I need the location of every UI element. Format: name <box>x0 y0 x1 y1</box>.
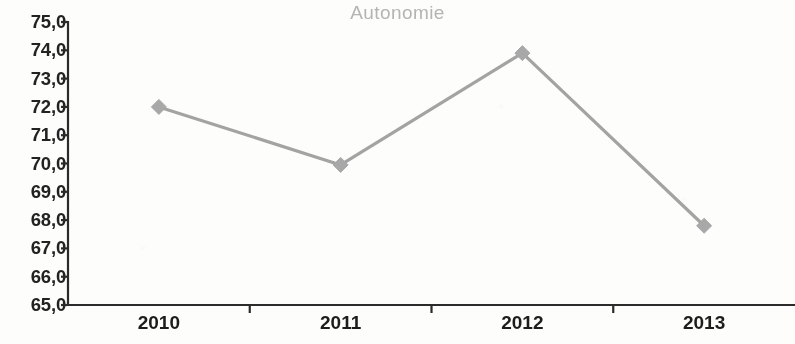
series-line <box>159 53 704 226</box>
data-point-marker <box>333 157 348 172</box>
chart-series <box>151 46 711 234</box>
chart-axes <box>61 21 795 313</box>
x-axis-tick-label: 2011 <box>320 312 361 334</box>
data-point-marker <box>151 99 166 114</box>
line-chart: Autonomie 75,074,073,072,071,070,069,068… <box>0 0 795 344</box>
x-axis-tick-label: 2012 <box>501 312 543 334</box>
x-axis-tick-label: 2013 <box>683 312 725 334</box>
chart-plot-area <box>0 0 795 344</box>
x-axis-tick-label: 2010 <box>138 312 180 334</box>
